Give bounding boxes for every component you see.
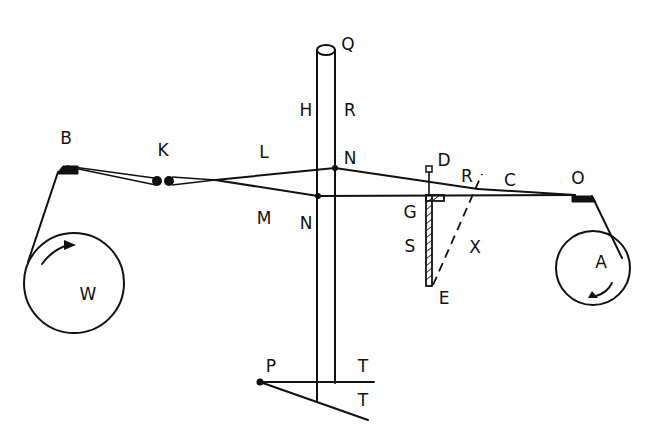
label-t-lower: T — [358, 392, 368, 409]
label-g: G — [403, 204, 416, 221]
arrowhead-icon — [64, 240, 76, 250]
label-n-upper: N — [344, 150, 357, 167]
label-h: H — [300, 102, 313, 119]
label-n-lower: N — [300, 215, 313, 232]
label-r-right: R — [461, 168, 473, 185]
label-t-upper: T — [358, 358, 368, 375]
label-s: S — [405, 238, 416, 255]
double-pulley-k — [152, 176, 174, 186]
label-o: O — [571, 170, 584, 187]
label-r-rod: R — [344, 102, 356, 119]
right-drum — [556, 231, 630, 305]
vertical-rod — [317, 45, 335, 402]
label-c: C — [504, 172, 516, 189]
left-drum — [24, 233, 124, 333]
label-q: Q — [341, 36, 354, 53]
label-b: B — [60, 130, 72, 147]
label-d: D — [437, 152, 450, 169]
base-pointer — [257, 379, 375, 421]
label-e: E — [439, 290, 450, 307]
label-w: W — [80, 286, 97, 303]
label-p: P — [266, 358, 276, 375]
arrowhead-icon — [588, 291, 598, 298]
rotation-arrow-icon — [596, 283, 612, 296]
label-a: A — [595, 254, 607, 271]
mechanical-diagram: Q H R B K L N D R C O M N G S X E W A P … — [0, 0, 647, 436]
label-x: X — [469, 239, 481, 256]
label-l: L — [259, 144, 268, 161]
label-m: M — [257, 210, 272, 227]
dashed-line-x — [433, 174, 482, 285]
label-k: K — [157, 142, 168, 159]
diagram-drawing — [0, 0, 647, 436]
